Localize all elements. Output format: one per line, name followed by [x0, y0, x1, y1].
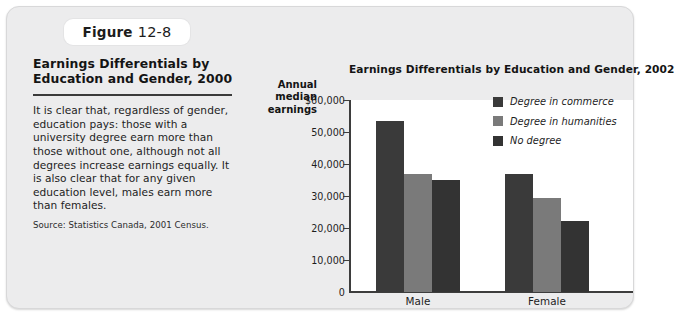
y-tick-mark	[343, 228, 349, 229]
y-tick-label: 40,000	[311, 159, 345, 170]
category-label: Female	[528, 295, 566, 307]
y-tick-label: 20,000	[311, 223, 345, 234]
bar	[505, 174, 533, 292]
chart-legend: Degree in commerceDegree in humanitiesNo…	[493, 96, 617, 155]
legend-label: No degree	[510, 135, 561, 146]
bar	[404, 174, 432, 292]
figure-badge-number: 12-8	[138, 24, 172, 40]
figure-text-column: Earnings Differentials by Education and …	[33, 57, 238, 230]
legend-swatch	[493, 136, 503, 146]
figure-source: Source: Statistics Canada, 2001 Census.	[33, 220, 238, 230]
figure-badge-label: Figure	[83, 24, 133, 40]
category-label: Male	[405, 295, 430, 307]
bar	[533, 198, 561, 292]
y-tick-label: 10,000	[311, 255, 345, 266]
bar	[376, 121, 404, 292]
figure-heading: Earnings Differentials by Education and …	[33, 57, 238, 86]
y-tick-mark	[343, 260, 349, 261]
y-axis-line	[349, 100, 351, 292]
legend-label: Degree in commerce	[510, 96, 614, 107]
legend-swatch	[493, 97, 503, 107]
bar	[561, 221, 589, 292]
y-tick-label: 0	[339, 287, 345, 298]
legend-item: Degree in humanities	[493, 116, 617, 127]
figure-body-text: It is clear that, regardless of gender, …	[33, 104, 238, 213]
heading-divider	[33, 94, 232, 96]
legend-item: No degree	[493, 135, 617, 146]
figure-panel: Figure 12-8 Earnings Differentials by Ed…	[6, 6, 634, 309]
chart-title: Earnings Differentials by Education and …	[349, 63, 675, 75]
y-tick-label: $60,000	[305, 95, 345, 106]
y-tick-mark	[343, 196, 349, 197]
legend-swatch	[493, 116, 503, 126]
legend-label: Degree in humanities	[510, 116, 617, 127]
y-tick-mark	[343, 132, 349, 133]
figure-number-badge: Figure 12-8	[64, 19, 190, 45]
y-tick-mark	[343, 100, 349, 101]
y-tick-mark	[343, 164, 349, 165]
y-tick-label: 50,000	[311, 127, 345, 138]
bar	[432, 180, 460, 292]
legend-item: Degree in commerce	[493, 96, 617, 107]
y-tick-label: 30,000	[311, 191, 345, 202]
